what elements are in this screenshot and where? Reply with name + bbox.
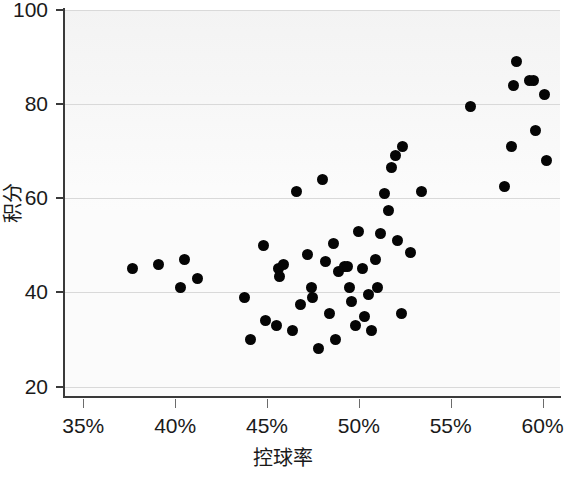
x-tick-label-35: 35% xyxy=(43,415,123,436)
x-tick-label-60: 60% xyxy=(503,415,565,436)
gridline-y-100 xyxy=(64,10,560,11)
data-point xyxy=(359,311,370,322)
y-axis-label: 积分 xyxy=(3,168,23,238)
data-point xyxy=(291,186,302,197)
y-tick-label-40: 40 xyxy=(2,281,48,302)
y-tick-label-100: 100 xyxy=(2,0,48,20)
data-point xyxy=(324,308,335,319)
gridline-y-80 xyxy=(64,104,560,105)
y-tick-mark-100 xyxy=(56,9,64,11)
data-point xyxy=(539,89,550,100)
data-point xyxy=(366,325,377,336)
data-point xyxy=(153,259,164,270)
y-tick-mark-60 xyxy=(56,197,64,199)
data-point xyxy=(508,80,519,91)
data-point xyxy=(313,343,324,354)
data-point xyxy=(287,325,298,336)
data-point xyxy=(499,181,510,192)
data-point xyxy=(375,228,386,239)
data-point xyxy=(350,320,361,331)
y-tick-mark-40 xyxy=(56,291,64,293)
data-point xyxy=(363,289,374,300)
x-tick-label-55: 55% xyxy=(411,415,491,436)
data-point xyxy=(245,334,256,345)
data-point xyxy=(328,238,339,249)
scatter-chart-figure: 20406080100 35%40%45%50%55%60% 积分 控球率 xyxy=(0,0,565,479)
gridline-y-20 xyxy=(64,387,560,388)
data-point xyxy=(530,125,541,136)
data-point xyxy=(239,292,250,303)
x-tick-mark-50 xyxy=(359,399,360,408)
data-point xyxy=(179,254,190,265)
y-tick-mark-20 xyxy=(56,386,64,388)
gridline-y-60 xyxy=(64,198,560,199)
data-point xyxy=(258,240,269,251)
x-axis-line xyxy=(63,396,561,398)
data-point xyxy=(383,205,394,216)
data-point xyxy=(307,292,318,303)
data-point xyxy=(541,155,552,166)
x-tick-label-40: 40% xyxy=(135,415,215,436)
data-point xyxy=(330,334,341,345)
x-tick-mark-40 xyxy=(175,399,176,408)
data-point xyxy=(506,141,517,152)
data-point xyxy=(295,299,306,310)
x-tick-mark-45 xyxy=(267,399,268,408)
data-point xyxy=(342,261,353,272)
data-point xyxy=(260,315,271,326)
y-tick-label-20: 20 xyxy=(2,376,48,397)
x-tick-label-45: 45% xyxy=(227,415,307,436)
y-axis-line xyxy=(63,8,65,398)
data-point xyxy=(278,259,289,270)
data-point xyxy=(528,75,539,86)
x-tick-mark-55 xyxy=(451,399,452,408)
data-point xyxy=(274,271,285,282)
data-point xyxy=(357,263,368,274)
y-tick-label-80: 80 xyxy=(2,93,48,114)
x-tick-label-50: 50% xyxy=(319,415,399,436)
x-tick-mark-60 xyxy=(543,399,544,408)
data-point xyxy=(127,263,138,274)
plot-area xyxy=(64,10,560,396)
y-tick-mark-80 xyxy=(56,103,64,105)
data-point xyxy=(396,308,407,319)
data-point xyxy=(370,254,381,265)
plot-background-shading xyxy=(64,10,560,210)
data-point xyxy=(320,256,331,267)
x-tick-mark-35 xyxy=(83,399,84,408)
data-point xyxy=(416,186,427,197)
data-point xyxy=(392,235,403,246)
data-point xyxy=(353,226,364,237)
x-axis-label: 控球率 xyxy=(0,448,565,468)
data-point xyxy=(271,320,282,331)
data-point xyxy=(405,247,416,258)
data-point xyxy=(302,249,313,260)
data-point xyxy=(346,296,357,307)
data-point xyxy=(192,273,203,284)
data-point xyxy=(372,282,383,293)
data-point xyxy=(317,174,328,185)
